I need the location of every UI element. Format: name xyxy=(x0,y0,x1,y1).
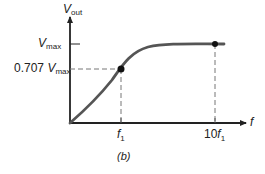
10f1-label: 10f1 xyxy=(204,128,225,140)
f1-subscript: 1 xyxy=(120,134,124,143)
vmax-0707-label: 0.707 Vmax xyxy=(14,62,71,74)
y-axis-subscript: out xyxy=(71,8,82,17)
vmax-subscript: max xyxy=(46,42,61,51)
vmax-0707-prefix: 0.707 xyxy=(14,61,47,75)
f1-label: f1 xyxy=(117,128,125,140)
10f1-prefix: 10 xyxy=(204,127,217,141)
x-axis-symbol: f xyxy=(250,115,253,129)
frequency-response-plot xyxy=(0,0,265,174)
figure-caption: (b) xyxy=(117,151,130,162)
point-10f1 xyxy=(212,41,218,47)
x-axis-label: f xyxy=(250,116,253,128)
vmax-symbol: V xyxy=(38,36,46,50)
y-axis-label: Vout xyxy=(63,3,82,15)
vmax-label: Vmax xyxy=(38,37,61,49)
10f1-subscript: 1 xyxy=(221,134,225,143)
caption-text: (b) xyxy=(117,150,130,162)
vmax-0707-subscript: max xyxy=(55,67,70,76)
y-axis-symbol: V xyxy=(63,2,71,16)
point-f1 xyxy=(118,66,125,73)
response-curve xyxy=(70,44,224,123)
